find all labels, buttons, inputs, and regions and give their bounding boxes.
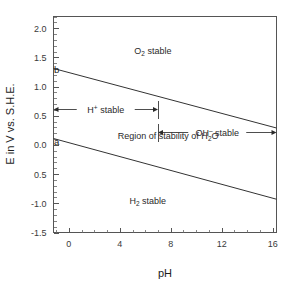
x-tick-label: 16 [268,239,278,249]
y-tick-label: 1.5 [34,53,47,63]
range-arrow-label: H+ stable [87,104,124,115]
chart-canvas: 0481216 2.01.51.00.50.00.5-1.0-1.5 ba O2… [0,0,291,286]
y-axis-tick-labels: 2.01.51.00.50.00.5-1.0-1.5 [31,24,47,238]
curve-label-a: a [54,136,60,147]
equilibrium-line-b [54,68,277,128]
equilibrium-line-a [54,139,277,200]
y-axis-major-ticks [54,29,59,234]
x-tick-label: 4 [117,239,122,249]
x-axis-major-ticks [70,228,274,233]
region-annotations: O2 stableRegion of stability of H2OH2 st… [118,46,219,207]
y-tick-label: 0.5 [34,111,47,121]
y-tick-label: 0.0 [34,140,47,150]
y-tick-label: -1.0 [31,199,47,209]
x-axis-title: pH [158,267,172,279]
x-tick-label: 0 [66,239,71,249]
arrow-head-left [54,107,59,112]
y-axis-title: E in V vs. S.H.E. [4,83,16,164]
annotation-o2-stable: O2 stable [134,46,171,57]
y-tick-label: -1.5 [31,228,47,238]
range-arrow-label: OH– stable [195,127,239,138]
range-arrow-h-plus-stable: H+ stable [54,101,159,119]
arrow-head-right [153,107,158,112]
curve-label-b: b [54,64,59,75]
arrow-head-right [272,130,277,135]
y-tick-label: 0.5 [34,170,47,180]
x-tick-label: 12 [217,239,227,249]
y-tick-label: 1.0 [34,82,47,92]
annotation-h2-stable: H2 stable [129,196,166,207]
x-tick-label: 8 [168,239,173,249]
curve-labels: ba [54,64,60,147]
pourbaix-water-stability-chart: 0481216 2.01.51.00.50.00.5-1.0-1.5 ba O2… [0,0,291,286]
x-axis-tick-labels: 0481216 [66,239,277,249]
y-tick-label: 2.0 [34,24,47,34]
